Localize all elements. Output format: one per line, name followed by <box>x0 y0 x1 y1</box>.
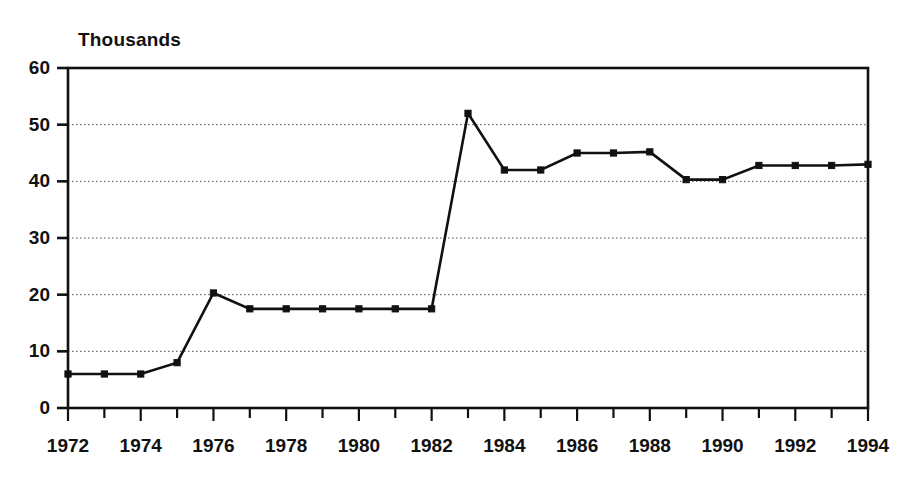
data-point-marker <box>829 162 835 168</box>
y-axis-tick-label: 0 <box>39 397 50 418</box>
data-point-marker <box>501 167 507 173</box>
data-point-marker <box>101 371 107 377</box>
x-axis-tick-label: 1994 <box>847 435 890 456</box>
data-point-marker <box>138 371 144 377</box>
y-axis-tick-label: 20 <box>29 284 50 305</box>
data-series-line <box>68 113 868 374</box>
data-point-marker <box>174 360 180 366</box>
data-point-marker <box>647 149 653 155</box>
data-point-marker <box>356 306 362 312</box>
data-point-marker <box>465 110 471 116</box>
x-axis-tick-label: 1978 <box>265 435 307 456</box>
plot-area: 0102030405060 19721974197619781980198219… <box>0 0 924 482</box>
x-axis-tick-label: 1980 <box>338 435 380 456</box>
data-point-marker <box>610 150 616 156</box>
x-axis-tick-label: 1982 <box>410 435 452 456</box>
x-axis-tick-label: 1986 <box>556 435 598 456</box>
data-point-marker <box>574 150 580 156</box>
y-axis-tick-label: 60 <box>29 57 50 78</box>
x-axis-tick-label: 1974 <box>120 435 163 456</box>
data-point-marker <box>319 306 325 312</box>
x-axis-tick-label: 1988 <box>629 435 671 456</box>
gridlines <box>68 125 868 352</box>
data-point-marker <box>65 371 71 377</box>
data-point-marker <box>429 306 435 312</box>
y-axis-tick-label: 10 <box>29 340 50 361</box>
data-point-marker <box>283 306 289 312</box>
data-point-marker <box>538 167 544 173</box>
y-axis-tick-label: 50 <box>29 114 50 135</box>
data-point-marker <box>792 162 798 168</box>
series-polyline <box>68 113 868 374</box>
x-axis-tick-label: 1992 <box>774 435 816 456</box>
data-point-marker <box>210 290 216 296</box>
data-point-marker <box>719 177 725 183</box>
x-axis-tick-label: 1976 <box>192 435 234 456</box>
line-chart: Thousands 0102030405060 1972197419761978… <box>0 0 924 482</box>
data-point-marker <box>247 306 253 312</box>
y-axis-tick-label: 40 <box>29 170 50 191</box>
y-axis-tick-labels: 0102030405060 <box>29 57 50 418</box>
x-axis-tick-label: 1984 <box>483 435 526 456</box>
x-axis-tick-label: 1990 <box>701 435 743 456</box>
y-axis-tick-label: 30 <box>29 227 50 248</box>
data-point-marker <box>756 162 762 168</box>
data-point-marker <box>683 177 689 183</box>
x-axis-ticks <box>68 408 868 421</box>
data-point-marker <box>865 161 871 167</box>
data-point-marker <box>392 306 398 312</box>
y-axis-ticks <box>57 68 68 408</box>
data-series-markers <box>65 110 871 377</box>
x-axis-tick-label: 1972 <box>47 435 89 456</box>
x-axis-tick-labels: 1972197419761978198019821984198619881990… <box>47 435 890 456</box>
